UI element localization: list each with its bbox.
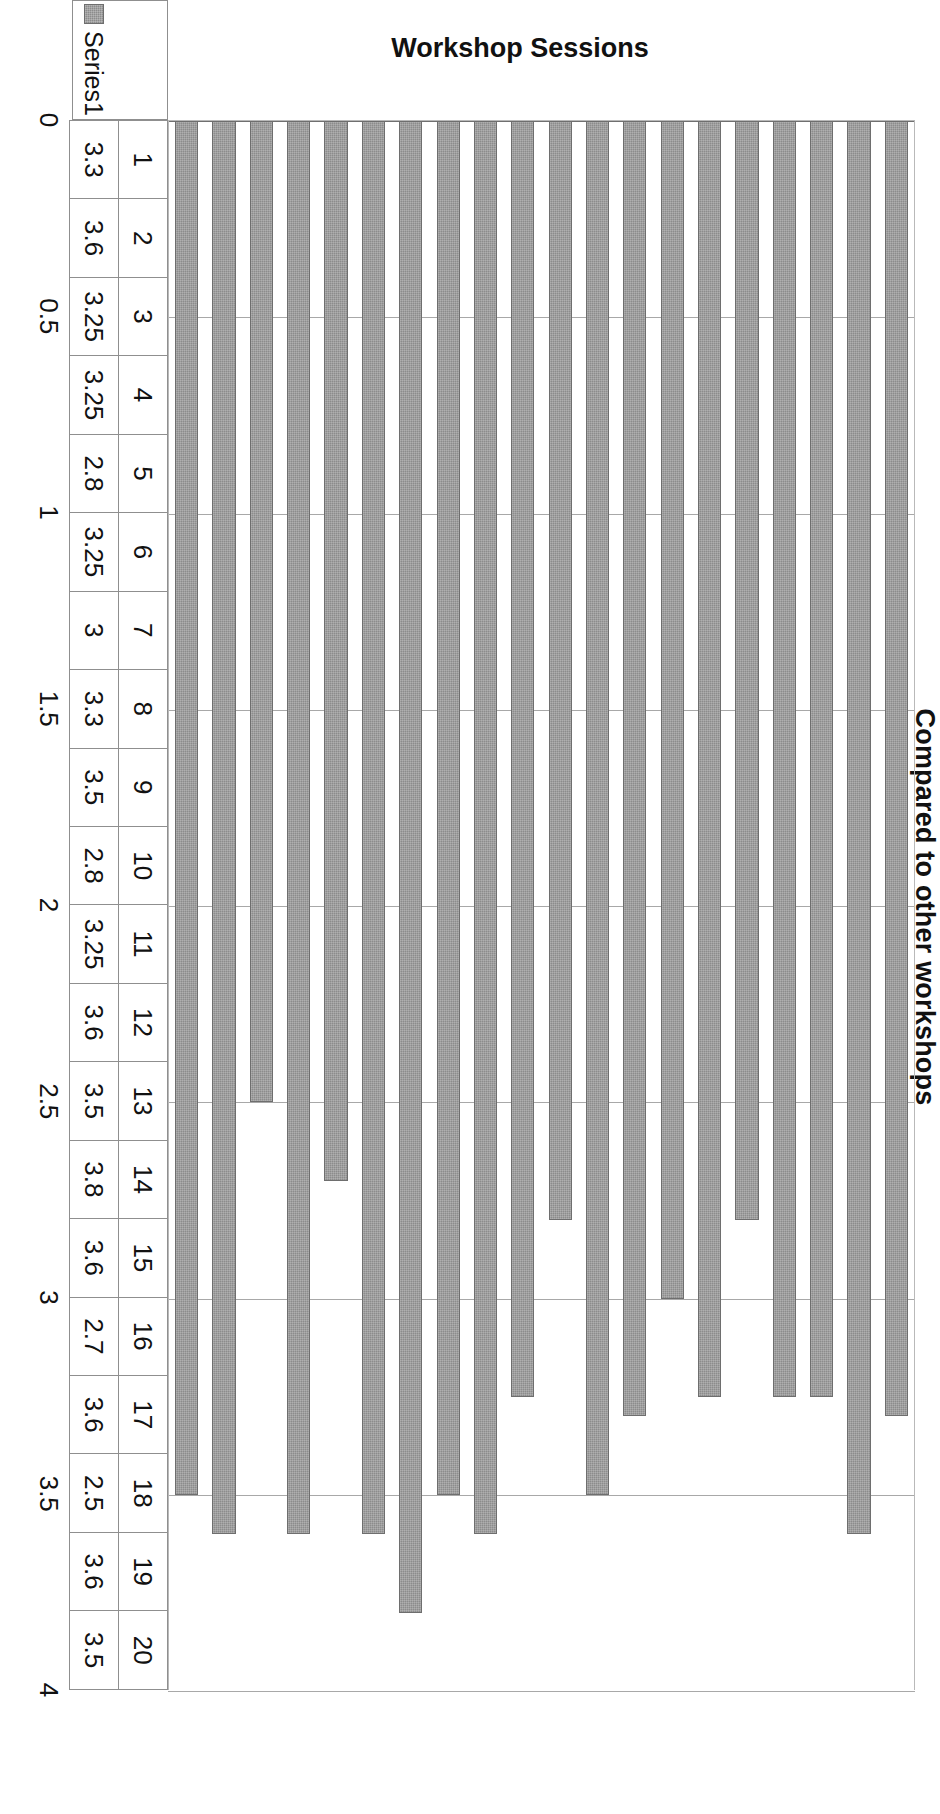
table-cell: 16 [119, 1297, 168, 1375]
plot-area [168, 120, 915, 1690]
table-cell: 9 [119, 748, 168, 826]
bar-4 [773, 121, 796, 1397]
bar-12 [474, 121, 497, 1534]
gridline [168, 710, 915, 711]
value-axis-tick-label: 1 [33, 505, 64, 519]
legend-swatch-icon [84, 4, 104, 24]
table-cell: 3.3 [70, 121, 119, 199]
table-cell: 3.25 [70, 905, 119, 983]
table-cell: 3.6 [70, 1376, 119, 1454]
bar-3 [810, 121, 833, 1397]
table-cell: 4 [119, 356, 168, 434]
table-cell: 14 [119, 1140, 168, 1218]
bar-17 [287, 121, 310, 1534]
table-cell: 7 [119, 591, 168, 669]
value-axis-tick-label: 0 [33, 113, 64, 127]
table-cell: 18 [119, 1454, 168, 1532]
table-cell: 2.8 [70, 434, 119, 512]
table-cell: 6 [119, 513, 168, 591]
table-cell: 2 [119, 199, 168, 277]
bar-10 [549, 121, 572, 1220]
bar-19 [212, 121, 235, 1534]
bar-11 [511, 121, 534, 1397]
category-axis-title: Workshop Sessions [50, 33, 940, 64]
gridline [168, 906, 915, 907]
table-cell: 5 [119, 434, 168, 512]
bar-18 [250, 121, 273, 1102]
table-cell: 3.6 [70, 983, 119, 1061]
bar-13 [437, 121, 460, 1495]
table-cell: 3 [119, 277, 168, 355]
bar-5 [735, 121, 758, 1220]
gridline [168, 1299, 915, 1300]
value-axis-tick-label: 4 [33, 1683, 64, 1697]
gridline [168, 1495, 915, 1496]
category-axis-title-wrap: Workshop Sessions [50, 33, 940, 73]
bar-1 [885, 121, 908, 1416]
bar-9 [586, 121, 609, 1495]
chart-root: Compared to other workshops 00.511.522.5… [0, 0, 940, 1814]
table-cell: 10 [119, 826, 168, 904]
table-cell: 13 [119, 1062, 168, 1140]
value-axis-tick-label: 0.5 [33, 298, 64, 334]
table-cell: 8 [119, 670, 168, 748]
table-cell: 17 [119, 1376, 168, 1454]
table-cell: 12 [119, 983, 168, 1061]
table-cell: 3.25 [70, 356, 119, 434]
value-axis-tick-label: 2.5 [33, 1083, 64, 1119]
table-cell: 3.5 [70, 1611, 119, 1690]
bar-6 [698, 121, 721, 1397]
bar-16 [325, 121, 348, 1181]
table-cell: 20 [119, 1611, 168, 1690]
data-table: 12345678910111213141516171819203.33.63.2… [69, 120, 168, 1690]
table-cell: 2.5 [70, 1454, 119, 1532]
bar-14 [399, 121, 422, 1613]
value-axis-tick-label: 3.5 [33, 1476, 64, 1512]
table-row-categories: 1234567891011121314151617181920 [119, 121, 168, 1690]
gridline [168, 1102, 915, 1103]
gridline [168, 317, 915, 318]
table-cell: 3 [70, 591, 119, 669]
bar-8 [623, 121, 646, 1416]
table-cell: 3.5 [70, 1062, 119, 1140]
table-cell: 3.8 [70, 1140, 119, 1218]
data-table-wrap: 12345678910111213141516171819203.33.63.2… [72, 120, 168, 1690]
table-cell: 3.25 [70, 277, 119, 355]
gridline [168, 1691, 915, 1692]
table-cell: 3.5 [70, 748, 119, 826]
table-cell: 3.6 [70, 199, 119, 277]
value-axis-tick-label: 3 [33, 1290, 64, 1304]
rotated-chart-canvas: Compared to other workshops 00.511.522.5… [0, 0, 940, 1814]
table-cell: 1 [119, 121, 168, 199]
table-cell: 3.25 [70, 513, 119, 591]
table-cell: 15 [119, 1219, 168, 1297]
bar-7 [661, 121, 684, 1299]
bar-20 [175, 121, 198, 1495]
value-axis-tick-label: 1.5 [33, 691, 64, 727]
bar-2 [847, 121, 870, 1534]
bar-15 [362, 121, 385, 1534]
table-cell: 3.3 [70, 670, 119, 748]
table-cell: 3.6 [70, 1219, 119, 1297]
value-axis-tick-label: 2 [33, 898, 64, 912]
table-cell: 19 [119, 1532, 168, 1610]
value-axis-ticks: 00.511.522.533.54 [24, 120, 64, 1690]
table-cell: 11 [119, 905, 168, 983]
table-cell: 2.7 [70, 1297, 119, 1375]
table-cell: 2.8 [70, 826, 119, 904]
table-row-values: 3.33.63.253.252.83.2533.33.52.83.253.63.… [70, 121, 119, 1690]
table-cell: 3.6 [70, 1532, 119, 1610]
value-axis-line [168, 121, 915, 122]
gridline [168, 514, 915, 515]
